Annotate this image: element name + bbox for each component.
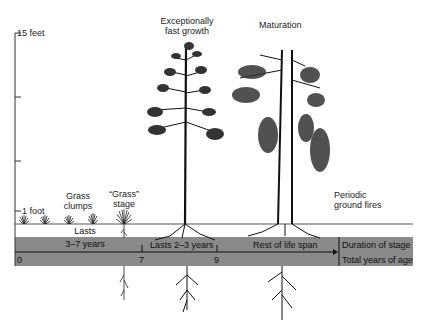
tick-label-9: 9 [214,255,219,265]
duration-label-3-7-years: 3–7 years [55,239,115,249]
y-axis-top-label: 15 feet [17,28,45,38]
stage-label-ground-fires: Periodic ground fires [334,190,382,210]
mature-pine-icon [232,50,330,320]
legend-duration-of-stage: Duration of stage [342,240,411,250]
stage-label-maturation: Maturation [259,20,302,30]
tick-label-7: 7 [139,255,144,265]
tick-label-0: 0 [17,255,22,265]
tall-pine-icon [147,42,224,312]
legend-total-years-of-age: Total years of age [342,255,413,265]
duration-label-2-3-years: Lasts 2–3 years [150,240,214,250]
duration-label-lasts: Lasts [55,226,115,236]
stage-label-grass-stage: “Grass” stage [104,189,144,209]
duration-label-rest: Rest of life span [253,240,318,250]
stage-label-grass-clumps: Grass clumps [58,191,98,211]
y-axis-bottom-label: 1 foot [22,206,45,216]
stage-label-fast-growth: Exceptionally fast growth [152,16,222,36]
diagram-canvas [0,0,423,325]
